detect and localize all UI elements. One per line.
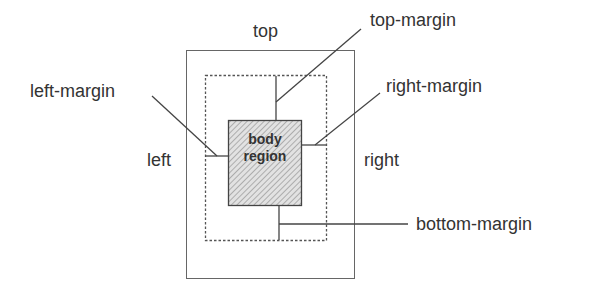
left-label: left <box>147 151 171 169</box>
body-region-label-line1: body <box>228 131 302 148</box>
right-margin-label: right-margin <box>386 77 482 95</box>
top-margin-label: top-margin <box>370 11 456 29</box>
left-margin-leader <box>152 96 217 156</box>
left-margin-label: left-margin <box>30 82 115 100</box>
right-margin-leader <box>315 93 380 145</box>
page-layout-diagram: top top-margin left-margin right-margin … <box>0 0 602 292</box>
top-label: top <box>253 22 278 40</box>
right-label: right <box>364 151 399 169</box>
body-region-label: body region <box>228 131 302 165</box>
bottom-margin-label: bottom-margin <box>416 215 532 233</box>
top-margin-leader <box>276 29 361 102</box>
body-region-label-line2: region <box>228 148 302 165</box>
